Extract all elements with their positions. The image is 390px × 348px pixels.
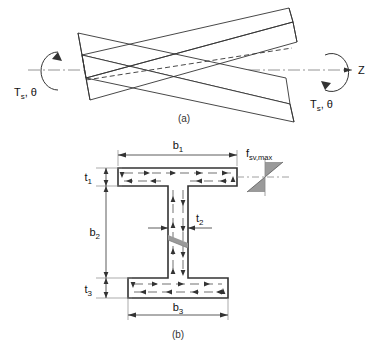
i-beam-outline [118, 168, 237, 298]
t2-arrowhead-left [161, 226, 168, 231]
dimension-b3: b3 [128, 298, 228, 320]
left-torque-label: Ts, θ [14, 86, 37, 101]
caption-a: (a) [178, 113, 190, 124]
t3-arrowhead-top [104, 278, 109, 284]
b2-arrowhead-top [104, 186, 109, 192]
stress-label-fsvmax: fsv,max [246, 147, 273, 162]
dimension-t1: t1 [84, 168, 122, 186]
right-end-cap-mid [293, 22, 297, 42]
right-torque-label: Ts, θ [310, 98, 333, 113]
t3-arrowhead-bottom [104, 292, 109, 298]
dimension-b1: b1 [118, 139, 237, 166]
engineering-figure: Ts, θ Ts, θ Z (a) [0, 0, 390, 348]
panel-a-twisted-beam: Ts, θ Ts, θ Z (a) [14, 8, 365, 124]
caption-b: (b) [172, 329, 184, 340]
t3-label: t3 [84, 283, 92, 298]
b3-arrowhead-left [128, 313, 136, 318]
panel-b-cross-section: fsv,max b1 [84, 139, 290, 340]
b3-arrowhead-right [220, 313, 228, 318]
right-end-cap-upper [289, 8, 293, 22]
left-torque-arrowhead [52, 52, 62, 61]
b2-arrowhead-bottom [104, 272, 109, 278]
b3-label: b3 [173, 301, 184, 316]
b1-label: b1 [173, 139, 184, 154]
dimension-t3: t3 [84, 278, 132, 298]
t2-label: t2 [196, 212, 204, 227]
b1-arrowhead-left [118, 153, 126, 158]
left-end-cap-lower [86, 78, 90, 100]
right-torque-arrowhead [321, 81, 331, 90]
b2-label: b2 [89, 226, 100, 241]
t1-label: t1 [84, 171, 92, 186]
dimension-b2: b2 [89, 186, 108, 278]
z-axis-label: Z [358, 64, 365, 76]
figure-canvas: Ts, θ Ts, θ Z (a) [0, 0, 390, 348]
t2-arrowhead-right [188, 226, 195, 231]
t1-arrowhead-bottom [104, 180, 109, 186]
b1-arrowhead-right [229, 153, 237, 158]
t1-arrowhead-top [104, 168, 109, 174]
